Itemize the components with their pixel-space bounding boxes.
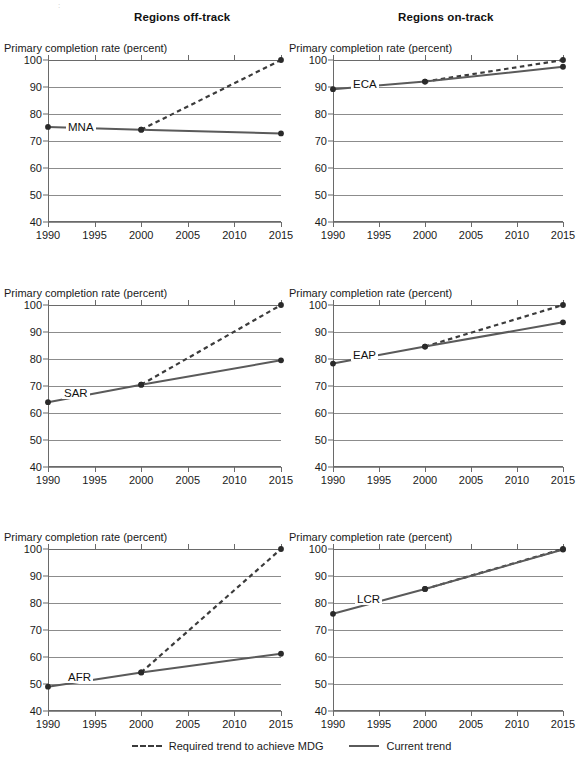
region-label-lcr: LCR (355, 593, 382, 605)
legend-item-required: Required trend to achieve MDG (132, 740, 324, 752)
ytick-label-90: 90 (30, 327, 42, 338)
ytick-label-40: 40 (30, 706, 42, 717)
xtick-mark-1995 (95, 711, 96, 716)
ytick-label-70: 70 (30, 136, 42, 147)
ytick-label-60: 60 (30, 408, 42, 419)
data-point (560, 57, 566, 63)
xtick-mark-2005 (471, 711, 472, 716)
ytick-label-60: 60 (30, 652, 42, 663)
xtick-label-2005: 2005 (176, 475, 200, 486)
xtick-mark-2010 (234, 711, 235, 716)
ytick-label-60: 60 (315, 163, 327, 174)
plot-area: 405060708090100199019952000200520102015L… (333, 549, 563, 711)
xtick-mark-2005 (188, 467, 189, 472)
xtick-mark-1990 (333, 711, 334, 716)
chart-page: : Regions off-track Regions on-track Pri… (0, 0, 583, 762)
legend-label-current: Current trend (386, 740, 451, 752)
xtick-mark-2005 (188, 711, 189, 716)
xtick-label-2005: 2005 (459, 719, 483, 730)
data-point (422, 79, 428, 85)
gridline-40 (48, 711, 281, 712)
xtick-mark-2000 (425, 711, 426, 716)
plot-area: 405060708090100199019952000200520102015A… (48, 549, 281, 711)
data-point (138, 669, 144, 675)
chart-panel-sar: Primary completion rate (percent)4050607… (4, 287, 291, 493)
xtick-mark-1995 (379, 222, 380, 227)
ytick-label-50: 50 (315, 679, 327, 690)
ytick-label-90: 90 (315, 571, 327, 582)
data-point (278, 546, 284, 552)
plot-area: 405060708090100199019952000200520102015S… (48, 305, 281, 467)
xtick-mark-2010 (517, 222, 518, 227)
chart-panel-afr: Primary completion rate (percent)4050607… (4, 531, 291, 737)
ytick-label-70: 70 (315, 625, 327, 636)
data-point (560, 302, 566, 308)
data-point (422, 586, 428, 592)
xtick-label-2010: 2010 (222, 475, 246, 486)
ytick-label-100: 100 (309, 300, 327, 311)
xtick-label-2010: 2010 (505, 475, 529, 486)
xtick-mark-1990 (48, 222, 49, 227)
xtick-mark-2010 (517, 467, 518, 472)
data-point (278, 302, 284, 308)
xtick-mark-2000 (141, 222, 142, 227)
ytick-label-80: 80 (315, 109, 327, 120)
ytick-label-40: 40 (315, 706, 327, 717)
xtick-label-2000: 2000 (129, 719, 153, 730)
legend-label-required: Required trend to achieve MDG (169, 740, 324, 752)
series-layer (48, 549, 281, 711)
ytick-label-100: 100 (24, 544, 42, 555)
xtick-label-1995: 1995 (367, 475, 391, 486)
data-point (278, 357, 284, 363)
ytick-label-40: 40 (315, 462, 327, 473)
ytick-label-50: 50 (30, 435, 42, 446)
xtick-label-1995: 1995 (82, 230, 106, 241)
ytick-label-90: 90 (315, 327, 327, 338)
axis-title: Primary completion rate (percent) (4, 42, 167, 54)
xtick-mark-1995 (95, 467, 96, 472)
data-point (45, 684, 51, 690)
xtick-label-2010: 2010 (222, 230, 246, 241)
series-line-required (425, 60, 563, 82)
xtick-mark-1990 (48, 711, 49, 716)
xtick-label-2005: 2005 (176, 230, 200, 241)
data-point (330, 361, 336, 367)
plot-area: 405060708090100199019952000200520102015E… (333, 305, 563, 467)
xtick-label-1990: 1990 (321, 475, 345, 486)
region-label-eca: ECA (351, 78, 379, 90)
ytick-label-70: 70 (315, 381, 327, 392)
gridline-40 (333, 222, 563, 223)
ytick-label-50: 50 (30, 679, 42, 690)
xtick-label-1995: 1995 (82, 475, 106, 486)
chart-legend: Required trend to achieve MDG Current tr… (0, 740, 583, 752)
chart-panel-lcr: Primary completion rate (percent)4050607… (289, 531, 573, 737)
xtick-label-2000: 2000 (413, 230, 437, 241)
chart-panel-eap: Primary completion rate (percent)4050607… (289, 287, 573, 493)
axis-title: Primary completion rate (percent) (289, 531, 452, 543)
ytick-label-80: 80 (315, 354, 327, 365)
gridline-40 (48, 467, 281, 468)
data-point (330, 611, 336, 617)
column-title-off-track: Regions off-track (134, 11, 230, 23)
region-label-eap: EAP (351, 349, 378, 361)
xtick-label-1990: 1990 (321, 719, 345, 730)
xtick-mark-1990 (48, 467, 49, 472)
xtick-label-2015: 2015 (551, 230, 575, 241)
ytick-label-100: 100 (309, 55, 327, 66)
region-label-afr: AFR (66, 671, 93, 683)
series-line-required (141, 60, 281, 130)
series-layer (333, 305, 563, 467)
xtick-label-1995: 1995 (82, 719, 106, 730)
ytick-label-100: 100 (309, 544, 327, 555)
xtick-label-1990: 1990 (36, 230, 60, 241)
dashed-line-icon (132, 745, 162, 747)
data-point (45, 124, 51, 130)
axis-title: Primary completion rate (percent) (4, 531, 167, 543)
ytick-label-50: 50 (315, 190, 327, 201)
ytick-label-60: 60 (30, 163, 42, 174)
axis-title: Primary completion rate (percent) (289, 287, 452, 299)
data-point (278, 651, 284, 657)
ytick-label-80: 80 (30, 354, 42, 365)
ytick-label-70: 70 (30, 625, 42, 636)
legend-item-current: Current trend (349, 740, 451, 752)
